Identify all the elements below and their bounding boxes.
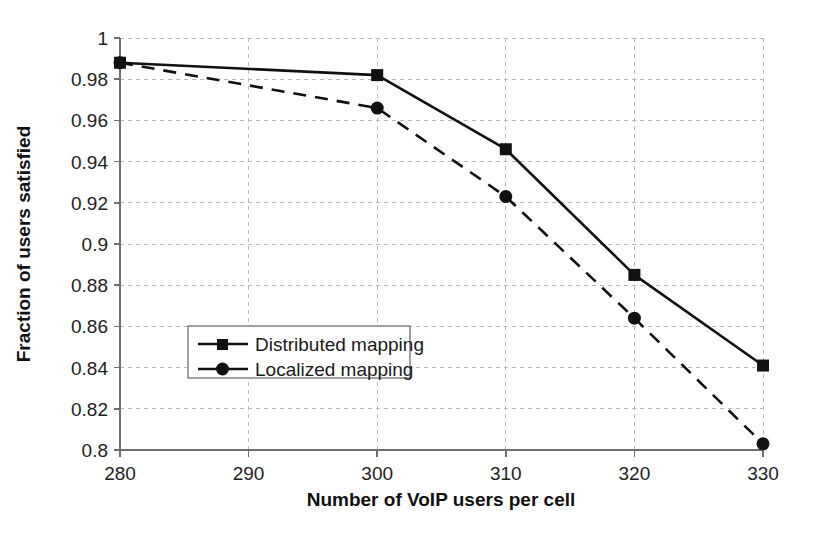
data-point-marker-circle	[114, 56, 127, 69]
x-axis-tick-label: 290	[233, 463, 265, 484]
data-point-marker-square	[757, 360, 769, 372]
data-point-marker-circle	[757, 437, 770, 450]
y-axis-tick-label: 0.86	[71, 316, 108, 337]
chart-figure: 0.80.820.840.860.880.90.920.940.960.981 …	[0, 0, 816, 539]
data-point-marker-square	[500, 143, 512, 155]
x-axis-title: Number of VoIP users per cell	[307, 489, 576, 510]
y-axis-tick-label: 0.96	[71, 110, 108, 131]
y-axis-tick-label: 1	[97, 28, 108, 49]
data-point-marker-circle	[628, 312, 641, 325]
legend-label-localized-mapping: Localized mapping	[255, 359, 413, 380]
data-point-marker-square	[628, 269, 640, 281]
chart-background	[0, 0, 816, 539]
y-axis-tick-label: 0.88	[71, 275, 108, 296]
data-point-marker-square	[371, 69, 383, 81]
legend-marker-circle-icon	[216, 363, 229, 376]
data-point-marker-circle	[371, 102, 384, 115]
legend-marker-square-icon	[217, 339, 228, 350]
y-axis-tick-label: 0.98	[71, 69, 108, 90]
y-axis-tick-label: 0.84	[71, 358, 108, 379]
chart-canvas: 0.80.820.840.860.880.90.920.940.960.981 …	[0, 0, 816, 539]
x-axis-tick-label: 280	[104, 463, 136, 484]
y-axis-tick-label: 0.8	[82, 440, 108, 461]
x-axis-tick-label: 320	[619, 463, 651, 484]
y-axis-tick-label: 0.92	[71, 193, 108, 214]
legend-label-distributed-mapping: Distributed mapping	[255, 334, 424, 355]
x-axis-tick-label: 310	[490, 463, 522, 484]
y-axis-tick-label: 0.94	[71, 152, 108, 173]
x-axis-tick-label: 330	[747, 463, 779, 484]
y-axis-title: Fraction of users satisfied	[13, 126, 34, 363]
y-axis-tick-label: 0.9	[82, 234, 108, 255]
x-axis-tick-label: 300	[361, 463, 393, 484]
data-point-marker-circle	[499, 190, 512, 203]
chart-legend: Distributed mapping Localized mapping	[188, 326, 424, 380]
y-axis-tick-label: 0.82	[71, 399, 108, 420]
